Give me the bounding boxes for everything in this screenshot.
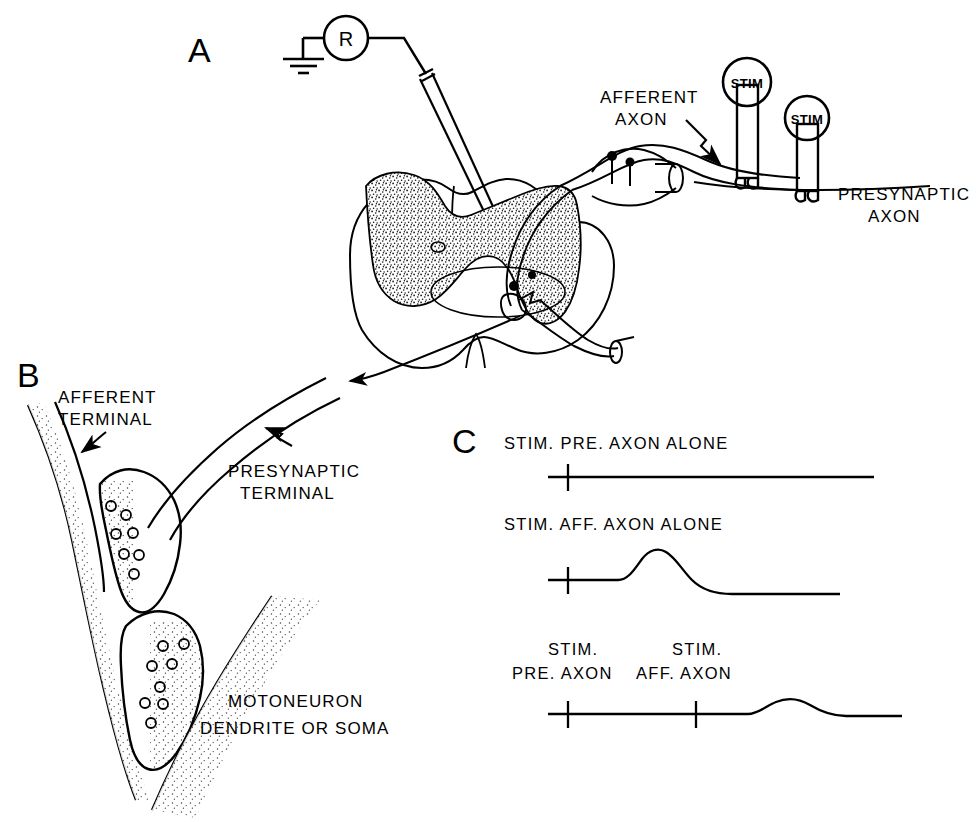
afferent-axon-arrow [686,120,720,164]
afferent-terminal-label-line2: TERMINAL [58,410,153,429]
trace-pre-alone-title: STIM. PRE. AXON ALONE [504,434,728,452]
afferent-axon-label-line1: AFFERENT [600,88,699,107]
motoneuron-label-line2: DENDRITE OR SOMA [200,719,390,738]
recording-amplifier[interactable]: R [324,16,368,60]
afferent-terminal-label-line1: AFFERENT [58,388,157,407]
panel-c-letter: C [452,422,477,460]
trace-aff-alone: STIM. AFF. AXON ALONE [504,515,840,594]
trace-pre-then-aff-mark1-line1: STIM. [548,640,599,658]
motoneuron-label-line1: MOTONEURON [228,692,363,711]
afferent-terminal-arrow [82,432,106,452]
trace-pre-alone: STIM. PRE. AXON ALONE [504,434,874,491]
panel-c: C STIM. PRE. AXON ALONE STIM. AFF. AXON … [452,422,902,728]
panel-b-letter: B [17,356,40,394]
figure-canvas: A R [0,0,977,822]
trace-pre-then-aff-waveform [548,699,902,716]
panel-b: B [17,356,390,818]
panel-a-letter: A [188,31,211,69]
trace-aff-alone-waveform [548,550,840,594]
trace-pre-then-aff: STIM. PRE. AXON STIM. AFF. AXON [512,640,902,728]
recording-wire [368,38,426,74]
trace-aff-alone-title: STIM. AFF. AXON ALONE [504,515,723,533]
stim-electrode-presynaptic-label: STIM [791,112,823,127]
panel-a: A R [188,16,970,381]
stim-electrode-presynaptic[interactable]: STIM [785,96,829,201]
presynaptic-terminal-label-line1: PRESYNAPTIC [228,462,360,481]
trace-pre-then-aff-mark1-line2: PRE. AXON [512,664,613,682]
afferent-axon-label-line2: AXON [615,110,668,129]
presynaptic-terminal-label-line2: TERMINAL [240,484,335,503]
presynaptic-axon-label-line2: AXON [868,207,921,226]
trace-pre-then-aff-mark2-line2: AFF. AXON [636,664,732,682]
stim-electrode-afferent-label: STIM [731,76,763,91]
ground-symbol [283,38,324,73]
dorsal-root-ganglion [592,149,683,206]
afferent-terminal [96,469,181,618]
figure-svg: A R [0,0,977,822]
presynaptic-axon-label-line1: PRESYNAPTIC [838,185,970,204]
presynaptic-fiber [148,378,340,540]
presynaptic-terminal-arrow [266,428,292,446]
recording-amplifier-label: R [339,28,353,50]
trace-pre-then-aff-mark2-line1: STIM. [672,640,723,658]
